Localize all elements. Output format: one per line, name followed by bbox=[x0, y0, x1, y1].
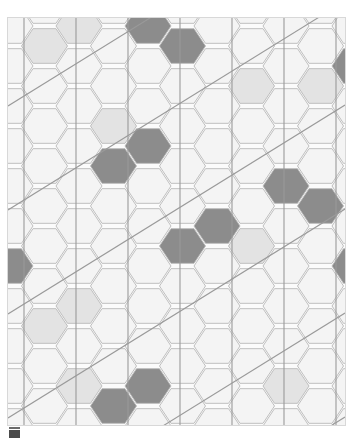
page-canvas bbox=[0, 0, 361, 442]
hexagon-cell bbox=[91, 69, 137, 104]
hexagon-cell bbox=[22, 349, 68, 384]
hexagon-cell bbox=[160, 109, 206, 144]
hexagon-cell bbox=[22, 189, 68, 224]
hexagon-cell bbox=[298, 149, 344, 184]
hexagon-cell bbox=[194, 329, 240, 364]
hexagon-cell bbox=[56, 89, 102, 124]
hexagon-cell bbox=[125, 249, 171, 284]
hexagon-cell bbox=[298, 29, 344, 64]
hexagon-cell bbox=[125, 89, 171, 124]
hexagon-cell bbox=[56, 209, 102, 244]
hexagon-pattern-svg bbox=[8, 18, 345, 425]
hexagon-cell bbox=[22, 309, 68, 344]
hexagon-cell bbox=[160, 269, 206, 304]
hexagon-cell bbox=[22, 149, 68, 184]
hexagon-cell bbox=[263, 89, 309, 124]
hexagon-cell bbox=[22, 29, 68, 64]
hexagon-cell bbox=[160, 69, 206, 104]
hexagon-cell bbox=[229, 189, 275, 224]
hexagon-cell bbox=[194, 129, 240, 164]
hexagon-cell bbox=[263, 129, 309, 164]
hexagon-cell bbox=[22, 269, 68, 304]
hexagonal-tiling-figure bbox=[8, 18, 345, 425]
hexagon-cell bbox=[194, 49, 240, 84]
hexagon-cell bbox=[298, 189, 344, 224]
hexagon-cell bbox=[194, 289, 240, 324]
hexagon-cell bbox=[229, 309, 275, 344]
hexagon-cell bbox=[56, 249, 102, 284]
hexagon-cell bbox=[125, 129, 171, 164]
hexagon-cell bbox=[125, 329, 171, 364]
hexagon-cell bbox=[160, 349, 206, 384]
hexagon-cell bbox=[125, 209, 171, 244]
hexagon-cell bbox=[91, 349, 137, 384]
hexagon-cell bbox=[22, 229, 68, 264]
hexagon-cell bbox=[263, 169, 309, 204]
hexagon-cell bbox=[229, 109, 275, 144]
hexagon-cell bbox=[56, 49, 102, 84]
hexagon-cell bbox=[125, 369, 171, 404]
hexagon-cell bbox=[160, 229, 206, 264]
hexagon-cell bbox=[160, 309, 206, 344]
hexagon-cell bbox=[125, 289, 171, 324]
hexagon-cell bbox=[22, 109, 68, 144]
hexagon-cell bbox=[263, 289, 309, 324]
hexagon-cell bbox=[56, 169, 102, 204]
hexagon-cell bbox=[194, 369, 240, 404]
hexagon-cell bbox=[91, 389, 137, 424]
hexagon-cell bbox=[298, 69, 344, 104]
hexagon-cell bbox=[229, 229, 275, 264]
hexagon-cell bbox=[91, 149, 137, 184]
hexagon-cell bbox=[263, 49, 309, 84]
hexagon-cell bbox=[229, 269, 275, 304]
hexagon-cell bbox=[194, 209, 240, 244]
hexagon-cell bbox=[125, 169, 171, 204]
hexagon-cell bbox=[298, 389, 344, 424]
hexagon-cells bbox=[8, 18, 345, 425]
hexagon-cell bbox=[160, 29, 206, 64]
hexagon-cell bbox=[263, 329, 309, 364]
hexagon-cell bbox=[263, 209, 309, 244]
hexagon-cell bbox=[91, 109, 137, 144]
hexagon-cell bbox=[298, 349, 344, 384]
hexagon-cell bbox=[91, 29, 137, 64]
hexagon-cell bbox=[229, 69, 275, 104]
hexagon-cell bbox=[160, 149, 206, 184]
hexagon-cell bbox=[229, 389, 275, 424]
hexagon-cell bbox=[263, 369, 309, 404]
hexagon-cell bbox=[125, 49, 171, 84]
hexagon-cell bbox=[91, 269, 137, 304]
hexagon-cell bbox=[263, 249, 309, 284]
hexagon-cell bbox=[56, 129, 102, 164]
hexagon-cell bbox=[91, 309, 137, 344]
hexagon-cell bbox=[56, 289, 102, 324]
hexagon-cell bbox=[194, 89, 240, 124]
hexagon-cell bbox=[298, 109, 344, 144]
hexagon-cell bbox=[229, 349, 275, 384]
hexagon-cell bbox=[56, 329, 102, 364]
hexagon-cell bbox=[160, 389, 206, 424]
hexagon-cell bbox=[229, 149, 275, 184]
hexagon-cell bbox=[22, 389, 68, 424]
hexagon-cell bbox=[91, 189, 137, 224]
hexagon-cell bbox=[298, 269, 344, 304]
hexagon-cell bbox=[229, 29, 275, 64]
caption-glyph-mark bbox=[9, 430, 20, 438]
